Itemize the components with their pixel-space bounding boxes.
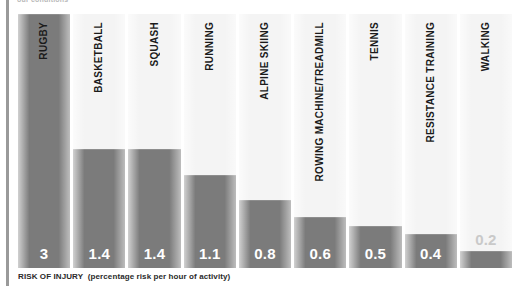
bar-category-label: WALKING bbox=[460, 22, 512, 71]
bar-column[interactable]: WALKING0.2 bbox=[460, 14, 512, 268]
bar-category-text: RUGBY bbox=[39, 22, 49, 60]
bar-category-label: TENNIS bbox=[349, 22, 401, 60]
bar-value-label: 3 bbox=[18, 245, 70, 262]
bar-column[interactable]: SQUASH1.4 bbox=[128, 14, 180, 268]
bar-category-text: ALPINE SKIING bbox=[260, 22, 270, 100]
bar-value-label: 1.4 bbox=[73, 245, 125, 262]
chart-plot-area: RUGBY3BASKETBALL1.4SQUASH1.4RUNNING1.1AL… bbox=[18, 14, 512, 268]
bar-category-label: RUNNING bbox=[184, 22, 236, 71]
bar-column[interactable]: RUNNING1.1 bbox=[184, 14, 236, 268]
bar-category-text: WALKING bbox=[481, 22, 491, 71]
bar-value-label: 0.2 bbox=[460, 231, 512, 248]
bar-category-label: BASKETBALL bbox=[73, 22, 125, 93]
bar-column[interactable]: BASKETBALL1.4 bbox=[73, 14, 125, 268]
bar-fill bbox=[460, 251, 512, 268]
left-vertical-rule bbox=[6, 0, 9, 286]
axis-caption: RISK OF INJURY (percentage risk per hour… bbox=[18, 272, 230, 281]
bar-value-label: 0.6 bbox=[294, 245, 346, 262]
top-clipped-caption: our conditions bbox=[17, 0, 317, 6]
bar-value-label: 1.1 bbox=[184, 245, 236, 262]
bar-value-label: 0.4 bbox=[405, 245, 457, 262]
bar-category-label: RUGBY bbox=[18, 22, 70, 60]
bar-column[interactable]: ALPINE SKIING0.8 bbox=[239, 14, 291, 268]
bar-category-text: ROWING MACHINE/TREADMILL bbox=[315, 22, 325, 181]
bar-value-label: 1.4 bbox=[128, 245, 180, 262]
bar-category-label: SQUASH bbox=[128, 22, 180, 67]
bar-category-label: ALPINE SKIING bbox=[239, 22, 291, 100]
bar-category-text: BASKETBALL bbox=[94, 22, 104, 93]
bar-category-text: SQUASH bbox=[150, 22, 160, 67]
bar-column[interactable]: RUGBY3 bbox=[18, 14, 70, 268]
bar-category-text: RUNNING bbox=[205, 22, 215, 71]
bar-column[interactable]: TENNIS0.5 bbox=[349, 14, 401, 268]
bar-column[interactable]: RESISTANCE TRAINING0.4 bbox=[405, 14, 457, 268]
risk-of-injury-bar-chart: our conditions RUGBY3BASKETBALL1.4SQUASH… bbox=[0, 0, 524, 296]
axis-caption-sub: (percentage risk per hour of activity) bbox=[88, 272, 231, 281]
bar-category-label: ROWING MACHINE/TREADMILL bbox=[294, 22, 346, 181]
bar-category-text: RESISTANCE TRAINING bbox=[426, 22, 436, 143]
bar-value-label: 0.5 bbox=[349, 245, 401, 262]
bar-column[interactable]: ROWING MACHINE/TREADMILL0.6 bbox=[294, 14, 346, 268]
axis-caption-main: RISK OF INJURY bbox=[18, 272, 83, 281]
bar-category-label: RESISTANCE TRAINING bbox=[405, 22, 457, 143]
bar-value-label: 0.8 bbox=[239, 245, 291, 262]
bar-category-text: TENNIS bbox=[370, 22, 380, 60]
